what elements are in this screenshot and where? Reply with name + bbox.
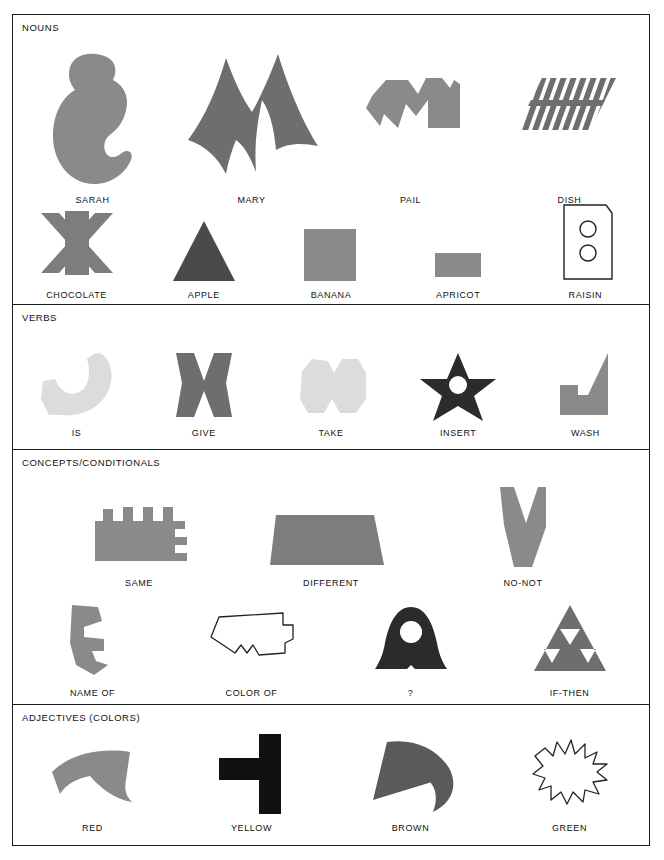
symbol-same[interactable]: SAME: [43, 493, 235, 588]
apricot-rectangle-shape: [423, 215, 493, 285]
take-double-hex-shape: [288, 349, 374, 423]
symbol-give[interactable]: GIVE: [140, 349, 267, 438]
symbol-label: NO-NOT: [503, 578, 542, 588]
symbol-label: CHOCOLATE: [46, 290, 107, 300]
symbol-label: BROWN: [392, 823, 430, 833]
symbol-label: MARY: [237, 195, 265, 205]
concepts-row-2: NAME OF COLOR OF ?: [13, 598, 649, 698]
symbol-wash[interactable]: WASH: [522, 349, 649, 438]
symbol-label: GREEN: [552, 823, 587, 833]
symbol-no-not[interactable]: NO-NOT: [427, 483, 619, 588]
symbol-pail[interactable]: PAIL: [331, 46, 490, 205]
is-leaf-hook-shape: [31, 349, 123, 423]
nouns-row-1: SARAH MARY PAIL: [13, 35, 649, 205]
symbol-label: INSERT: [440, 428, 476, 438]
symbol-label: APPLE: [188, 290, 220, 300]
symbol-yellow[interactable]: YELLOW: [172, 730, 331, 833]
same-comb-shape: [81, 493, 197, 573]
symbol-label: SAME: [125, 578, 153, 588]
symbol-label: SARAH: [75, 195, 109, 205]
section-title-verbs: VERBS: [22, 312, 57, 323]
symbol-mary[interactable]: MARY: [172, 50, 331, 205]
symbol-color-of[interactable]: COLOR OF: [172, 591, 331, 698]
apple-triangle-shape: [169, 215, 239, 285]
symbol-is[interactable]: IS: [13, 349, 140, 438]
symbol-brown[interactable]: BROWN: [331, 734, 490, 833]
question-bell-hole-shape: [371, 599, 451, 683]
give-bowtie-shape: [164, 349, 244, 423]
symbol-label: ?: [408, 688, 414, 698]
insert-star-hole-shape: [418, 349, 498, 423]
if-then-sierpinski-triangle-shape: [528, 599, 612, 683]
symbol-if-then[interactable]: IF-THEN: [490, 599, 649, 698]
symbol-label: BANANA: [311, 290, 352, 300]
brown-arrow-head-shape: [359, 734, 463, 818]
symbol-chart-sheet: NOUNS SARAH MARY: [12, 14, 650, 846]
symbol-green[interactable]: GREEN: [490, 732, 649, 833]
symbol-label: IS: [72, 428, 82, 438]
section-adjectives-colors: ADJECTIVES (COLORS) RED: [13, 705, 649, 845]
symbol-label: NAME OF: [70, 688, 115, 698]
chocolate-asterisk-shape: [29, 209, 125, 285]
symbol-label: TAKE: [318, 428, 343, 438]
symbol-label: YELLOW: [231, 823, 272, 833]
wash-notched-triangle-shape: [550, 349, 620, 423]
adjectives-row-1: RED YELLOW: [13, 729, 649, 833]
symbol-apple[interactable]: APPLE: [140, 215, 267, 300]
symbol-insert[interactable]: INSERT: [395, 349, 522, 438]
symbol-sarah[interactable]: SARAH: [13, 50, 172, 205]
symbol-question[interactable]: ?: [331, 599, 490, 698]
raisin-outlined-box-shape: [550, 201, 620, 285]
section-concepts-conditionals: CONCEPTS/CONDITIONALS SAME DIFFERENT: [13, 450, 649, 705]
section-title-adjectives: ADJECTIVES (COLORS): [22, 712, 140, 723]
banana-square-shape: [296, 215, 366, 285]
symbol-chocolate[interactable]: CHOCOLATE: [13, 209, 140, 300]
mary-m-spike-shape: [182, 50, 322, 190]
section-verbs: VERBS IS GIVE: [13, 305, 649, 450]
symbol-label: RED: [82, 823, 103, 833]
nouns-row-2: CHOCOLATE APPLE BANANA: [13, 210, 649, 300]
symbol-label: COLOR OF: [226, 688, 278, 698]
symbol-label: RAISIN: [569, 290, 603, 300]
symbol-label: PAIL: [400, 195, 421, 205]
symbol-take[interactable]: TAKE: [267, 349, 394, 438]
symbol-different[interactable]: DIFFERENT: [235, 493, 427, 588]
different-trapezoid-shape: [266, 493, 396, 573]
section-title-nouns: NOUNS: [22, 22, 59, 33]
symbol-name-of[interactable]: NAME OF: [13, 599, 172, 698]
symbol-label: DIFFERENT: [303, 578, 359, 588]
concepts-row-1: SAME DIFFERENT NO-NOT: [13, 478, 649, 588]
symbol-label: IF-THEN: [550, 688, 590, 698]
symbol-label: WASH: [571, 428, 600, 438]
verbs-row-1: IS GIVE TAKE: [13, 333, 649, 438]
dish-striped-parallelogram-shape: [514, 44, 626, 190]
symbol-apricot[interactable]: APRICOT: [395, 215, 522, 300]
symbol-banana[interactable]: BANANA: [267, 215, 394, 300]
name-of-arrow-notch-shape: [58, 599, 128, 683]
sarah-blob-shape: [45, 50, 141, 190]
color-of-outlined-polygon-shape: [197, 591, 307, 683]
green-outlined-starburst-shape: [527, 732, 613, 818]
symbol-red[interactable]: RED: [13, 738, 172, 833]
no-not-v-wedge-shape: [488, 483, 558, 573]
section-title-concepts: CONCEPTS/CONDITIONALS: [22, 457, 160, 468]
symbol-dish[interactable]: DISH: [490, 44, 649, 205]
symbol-label: GIVE: [192, 428, 216, 438]
red-curved-band-shape: [38, 738, 148, 818]
yellow-t-cross-shape: [205, 730, 299, 818]
symbol-raisin[interactable]: RAISIN: [522, 201, 649, 300]
pail-zigzag-shape: [356, 46, 466, 190]
symbol-label: APRICOT: [436, 290, 480, 300]
section-nouns: NOUNS SARAH MARY: [13, 15, 649, 305]
